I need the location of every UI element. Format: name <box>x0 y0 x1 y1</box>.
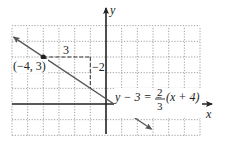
x-axis-label: x <box>205 107 212 121</box>
equation-denominator: 3 <box>157 100 163 112</box>
point-label: (−4, 3) <box>13 59 46 73</box>
run-label: 3 <box>63 43 69 57</box>
equation-right: (x + 4) <box>166 90 199 104</box>
rise-label: −2 <box>92 60 105 74</box>
coordinate-plane: (−4, 3) 3 −2 y − 3 = − 2 3 (x + 4) x y <box>0 0 229 144</box>
equation-numerator: 2 <box>157 86 163 98</box>
y-axis-label: y <box>109 3 116 17</box>
equation-left: y − 3 = − <box>114 90 163 104</box>
